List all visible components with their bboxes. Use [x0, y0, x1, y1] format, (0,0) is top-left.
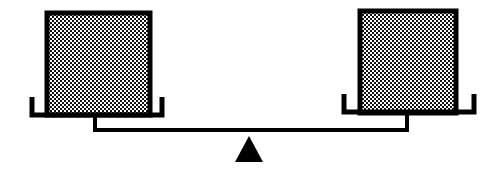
left-block [47, 13, 150, 115]
right-block [360, 11, 456, 113]
balance-scale-drawing [0, 0, 496, 174]
left-block-body [47, 13, 150, 115]
left-assembly [32, 13, 162, 130]
right-assembly [344, 11, 474, 130]
right-block-body [360, 11, 456, 113]
balance-scale-figure: A level balance scale. A horizontal beam… [0, 0, 496, 174]
